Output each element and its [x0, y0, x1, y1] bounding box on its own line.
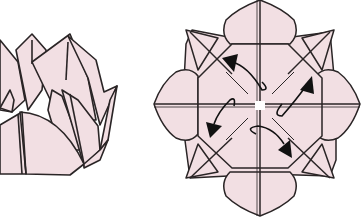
petal-left	[154, 70, 198, 141]
lotus-side-view	[0, 34, 117, 175]
origami-diagram	[0, 0, 361, 221]
lotus-top-view	[154, 0, 360, 216]
